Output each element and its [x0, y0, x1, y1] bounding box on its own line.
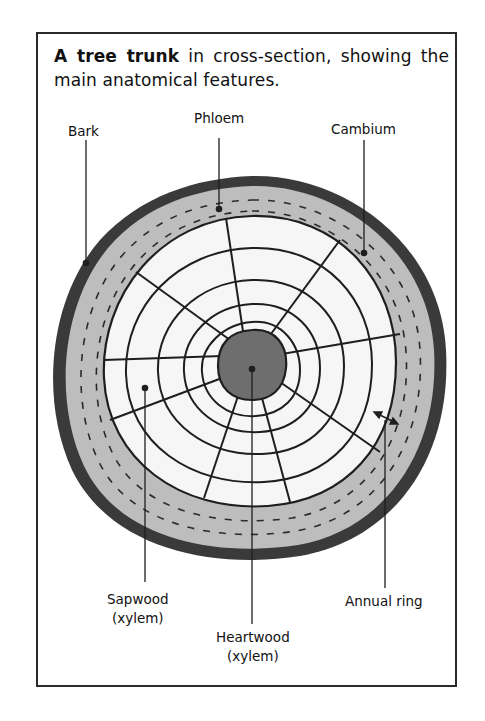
label-heartwood-line2: (xylem)	[216, 647, 290, 666]
label-sapwood-line1: Sapwood	[107, 590, 169, 609]
label-sapwood: Sapwood (xylem)	[107, 590, 169, 628]
label-sapwood-line2: (xylem)	[107, 609, 169, 628]
label-heartwood-line1: Heartwood	[216, 628, 290, 647]
label-heartwood: Heartwood (xylem)	[216, 628, 290, 666]
label-cambium: Cambium	[331, 120, 396, 139]
label-bark: Bark	[68, 122, 99, 141]
label-annual-ring: Annual ring	[345, 592, 423, 611]
label-phloem: Phloem	[194, 109, 244, 128]
